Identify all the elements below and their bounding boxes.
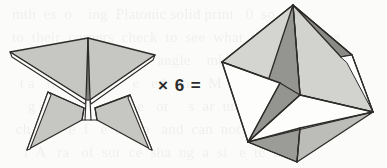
left-center-notch — [85, 100, 91, 120]
geometry-figure: mth es o ing Platonic solid print 0 so t… — [0, 0, 387, 168]
multiplier-equals-label: × 6 = — [158, 76, 202, 96]
left-face-lower-right — [95, 95, 152, 150]
left-face-upper-left — [10, 38, 88, 100]
left-face-lower-left — [27, 92, 84, 150]
left-face-upper-right — [88, 38, 155, 100]
right-shape-assembled-polyhedron — [222, 5, 373, 162]
left-shape-star-tetrahedron — [10, 38, 155, 150]
